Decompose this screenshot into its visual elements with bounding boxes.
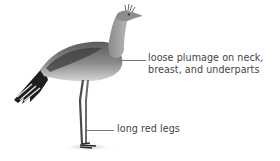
bird-illustration — [0, 0, 280, 161]
legs-label-line-1: long red legs — [117, 123, 180, 135]
plumage-label: loose plumage on neck, breast, and under… — [148, 52, 263, 76]
bird-crest — [125, 4, 135, 12]
bird-leg-front — [86, 80, 88, 144]
bird-leg-back — [80, 80, 83, 144]
plumage-label-line-1: loose plumage on neck, — [148, 52, 263, 64]
bird-head — [116, 11, 143, 22]
legs-label: long red legs — [117, 123, 180, 135]
plumage-leader-line — [118, 60, 146, 61]
plumage-label-line-2: breast, and underparts — [148, 64, 263, 76]
legs-leader-line — [86, 130, 114, 131]
diagram: loose plumage on neck, breast, and under… — [0, 0, 280, 161]
